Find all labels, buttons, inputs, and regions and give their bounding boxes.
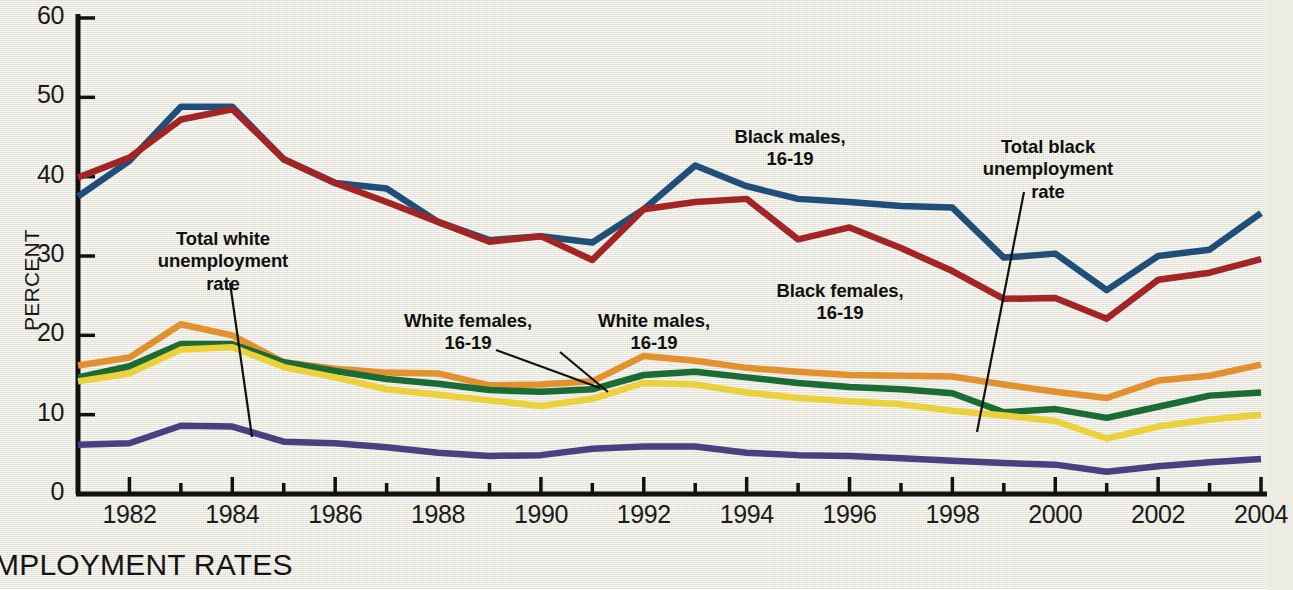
annotation-leader-line bbox=[977, 192, 1024, 432]
x-axis-tick-label: 2002 bbox=[1113, 500, 1203, 529]
y-axis-tick-label: 50 bbox=[12, 80, 64, 109]
x-axis-tick-label: 1996 bbox=[805, 500, 895, 529]
x-axis-tick-label: 1992 bbox=[599, 500, 689, 529]
annotation-leader-line bbox=[230, 283, 252, 437]
y-axis-tick-label: 30 bbox=[12, 239, 64, 268]
annotation-total-black-unemployment-rate: Total black unemployment rate bbox=[950, 136, 1146, 203]
x-axis-tick-label: 1988 bbox=[393, 500, 483, 529]
chart-caption: MPLOYMENT RATES bbox=[0, 548, 293, 582]
y-axis-tick-label: 20 bbox=[12, 318, 64, 347]
y-axis-tick-label: 60 bbox=[12, 1, 64, 30]
annotation-white-females-16-19: White females, 16-19 bbox=[370, 310, 566, 355]
x-axis-tick-label: 1990 bbox=[496, 500, 586, 529]
x-axis-tick-label: 2004 bbox=[1216, 500, 1293, 529]
annotation-white-males-16-19: White males, 16-19 bbox=[566, 310, 742, 355]
x-axis-tick-label: 1998 bbox=[907, 500, 997, 529]
y-axis-tick-label: 10 bbox=[12, 398, 64, 427]
x-axis-tick-label: 1982 bbox=[84, 500, 174, 529]
x-axis-tick-label: 2000 bbox=[1010, 500, 1100, 529]
x-axis-tick-label: 1984 bbox=[187, 500, 277, 529]
annotation-black-females-16-19: Black females, 16-19 bbox=[730, 280, 950, 325]
annotation-black-males-16-19: Black males, 16-19 bbox=[680, 126, 900, 171]
y-axis-tick-label: 40 bbox=[12, 160, 64, 189]
x-axis-tick-label: 1986 bbox=[290, 500, 380, 529]
annotation-total-white-unemployment-rate: Total white unemployment rate bbox=[128, 228, 318, 295]
x-axis-tick-label: 1994 bbox=[702, 500, 792, 529]
y-axis-tick-label: 0 bbox=[12, 477, 64, 506]
